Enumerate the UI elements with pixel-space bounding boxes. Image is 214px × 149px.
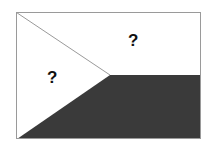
triangle-edge <box>17 13 111 76</box>
bottom-stripe <box>17 75 201 139</box>
top-stripe-label: ? <box>128 32 138 49</box>
flag-diagram <box>0 0 214 149</box>
left-triangle-label: ? <box>47 69 57 86</box>
